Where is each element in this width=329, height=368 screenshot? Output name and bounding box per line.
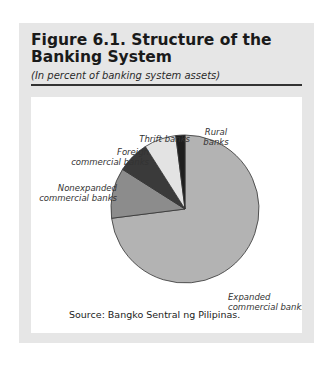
label-thrift: Thrift banks: [139, 134, 190, 144]
label-foreign-2: commercial banks: [71, 157, 149, 167]
label-nonexpanded-2: commercial banks: [39, 193, 117, 203]
chart-area: Rural banks Thrift banks Foreign commerc…: [31, 97, 302, 333]
label-rural-2: banks: [203, 137, 229, 147]
label-expanded-1: Expanded: [228, 292, 271, 302]
label-nonexpanded-1: Nonexpanded: [58, 183, 118, 193]
figure-subtitle: (In percent of banking system assets): [31, 70, 220, 81]
source-note: Source: Bangko Sentral ng Pilipinas.: [69, 309, 240, 320]
pie-chart: Rural banks Thrift banks Foreign commerc…: [31, 97, 302, 333]
label-rural-1: Rural: [205, 127, 228, 137]
label-foreign-1: Foreign: [117, 147, 149, 157]
title-divider: [31, 84, 302, 86]
figure-panel: Figure 6.1. Structure of the Banking Sys…: [19, 23, 314, 343]
figure-title: Figure 6.1. Structure of the Banking Sys…: [31, 32, 301, 66]
